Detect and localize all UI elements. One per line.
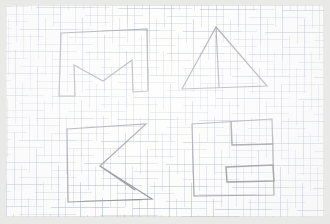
- letter-e-outline: [192, 119, 274, 196]
- letter-m-outline: [59, 29, 148, 96]
- letter-a-outline: [182, 27, 267, 89]
- letter-k-outline: [67, 124, 152, 202]
- letter-e-upper-notch: [231, 122, 273, 145]
- photograph: MAKE: [0, 0, 330, 224]
- letter-a-group: [182, 27, 267, 89]
- letter-e-group: [192, 119, 274, 196]
- letter-k-inner-diagonal: [100, 166, 135, 190]
- letter-a-crossbar: [216, 27, 219, 87]
- letter-m-group: [59, 29, 148, 96]
- pencil-drawing: [6, 5, 324, 217]
- graph-paper-sheet: [6, 5, 324, 217]
- letter-k-group: [67, 124, 152, 202]
- letter-e-lower-notch: [226, 165, 274, 182]
